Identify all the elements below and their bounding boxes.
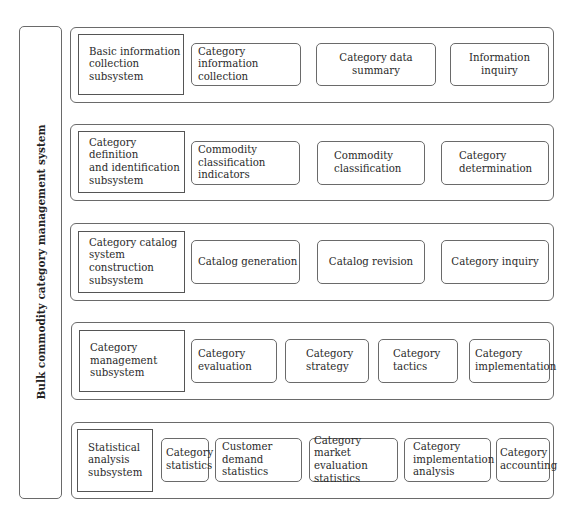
function-label: Commodity classification indicators [198, 144, 299, 182]
function-category-tactics: Category tactics [378, 339, 458, 383]
function-label: Category information collection [198, 46, 300, 84]
function-category-determination: Category determination [441, 141, 549, 185]
function-catalog-generation: Catalog generation [191, 240, 300, 284]
function-label: Customer demand statistics [222, 441, 301, 479]
subsystem-category-catalog-construction: Category catalog system construction sub… [78, 231, 185, 293]
subsystem-label: Category catalog system construction sub… [89, 237, 184, 287]
function-category-inquiry: Category inquiry [441, 240, 549, 284]
subsystem-basic-information-collection: Basic information collection subsystem [78, 34, 184, 95]
subsystem-label: Statistical analysis subsystem [88, 442, 142, 480]
function-label: Category data summary [317, 52, 435, 77]
function-category-accounting: Category accounting [496, 438, 550, 482]
function-information-inquiry: Information inquiry [450, 43, 549, 86]
function-category-implementation: Category implementation [469, 339, 550, 383]
function-label: Commodity classification [334, 150, 401, 175]
subsystem-category-definition-identification: Category definition and identification s… [78, 131, 185, 193]
function-label: Category statistics [166, 447, 213, 472]
function-commodity-classification: Commodity classification [317, 141, 425, 185]
subsystem-statistical-analysis: Statistical analysis subsystem [77, 429, 153, 492]
function-label: Category implementation analysis [413, 441, 494, 479]
function-label: Category accounting [500, 447, 557, 472]
function-category-market-evaluation-statistics: Category market evaluation statistics [309, 438, 398, 482]
function-category-strategy: Category strategy [285, 339, 369, 383]
function-category-statistics: Category statistics [161, 438, 209, 482]
function-label: Category tactics [393, 348, 440, 373]
function-label: Catalog generation [198, 256, 297, 269]
subsystem-label: Category management subsystem [90, 342, 157, 380]
function-commodity-classification-indicators: Commodity classification indicators [191, 141, 300, 185]
function-category-information-collection: Category information collection [191, 43, 301, 86]
function-category-evaluation: Category evaluation [191, 339, 277, 383]
subsystem-category-management: Category management subsystem [79, 330, 185, 392]
system-title: Bulk commodity category management syste… [35, 124, 47, 399]
function-label: Category determination [459, 150, 532, 175]
function-catalog-revision: Catalog revision [317, 240, 425, 284]
function-category-implementation-analysis: Category implementation analysis [404, 438, 491, 482]
subsystem-label: Basic information collection subsystem [89, 46, 183, 84]
function-label: Category evaluation [198, 348, 252, 373]
function-label: Category strategy [306, 348, 353, 373]
function-label: Category implementation [475, 348, 556, 373]
function-customer-demand-statistics: Customer demand statistics [215, 438, 302, 482]
function-label: Category inquiry [451, 256, 538, 269]
function-label: Category market evaluation statistics [314, 435, 397, 485]
function-label: Catalog revision [329, 256, 413, 269]
function-label: Information inquiry [451, 52, 548, 77]
subsystem-label: Category definition and identification s… [89, 137, 184, 187]
function-category-data-summary: Category data summary [316, 43, 436, 86]
